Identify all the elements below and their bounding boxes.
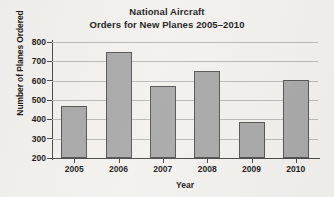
x-axis-ticks — [52, 159, 318, 164]
x-axis-tick — [74, 159, 75, 163]
x-axis-tick-label: 2005 — [65, 164, 84, 174]
y-axis-tick — [47, 80, 52, 81]
y-axis-tick — [47, 100, 52, 101]
x-axis-tick-label: 2007 — [153, 164, 172, 174]
y-axis-tick — [47, 138, 52, 139]
x-axis-tick — [119, 159, 120, 163]
y-axis-tick-labels: 800700600500400300200 — [18, 42, 46, 158]
x-axis-tick — [296, 159, 297, 163]
bar-2009 — [239, 122, 265, 158]
x-axis-tick-label: 2006 — [109, 164, 128, 174]
bar-2005 — [61, 106, 87, 158]
plot-area — [52, 42, 318, 158]
bar-2010 — [283, 80, 309, 158]
x-axis-title: Year — [52, 180, 318, 190]
y-axis-tick-label: 800 — [20, 37, 46, 47]
y-axis-tick-label: 300 — [20, 134, 46, 144]
y-axis-tick — [47, 61, 52, 62]
x-axis-tick — [252, 159, 253, 163]
y-axis-tick — [47, 42, 52, 43]
x-axis-tick-label: 2009 — [242, 164, 261, 174]
bar-chart-figure: National Aircraft Orders for New Planes … — [0, 0, 334, 197]
bar-2007 — [150, 86, 176, 158]
bar-2008 — [194, 71, 220, 158]
y-axis-tick-label: 400 — [20, 114, 46, 124]
chart-title: National Aircraft Orders for New Planes … — [0, 6, 334, 31]
gridline — [52, 119, 318, 120]
gridline — [52, 42, 318, 43]
x-axis-tick-labels: 200520062007200820092010 — [52, 164, 318, 176]
y-axis-tick-label: 200 — [20, 153, 46, 163]
x-axis-tick — [163, 159, 164, 163]
gridline — [52, 81, 318, 82]
chart-title-line-2: Orders for New Planes 2005–2010 — [0, 19, 334, 32]
y-axis-tick-label: 600 — [20, 76, 46, 86]
gridline — [52, 139, 318, 140]
x-axis-tick-label: 2010 — [286, 164, 305, 174]
gridline — [52, 61, 318, 62]
y-axis-tick-label: 700 — [20, 56, 46, 66]
y-axis-tick — [47, 119, 52, 120]
x-axis-tick — [207, 159, 208, 163]
y-axis-tick-label: 500 — [20, 95, 46, 105]
chart-title-line-1: National Aircraft — [0, 6, 334, 19]
x-axis-tick-label: 2008 — [198, 164, 217, 174]
gridline — [52, 100, 318, 101]
bar-2006 — [106, 52, 132, 158]
